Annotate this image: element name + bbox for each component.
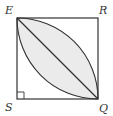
vertex-label-E: E xyxy=(4,4,13,17)
vertex-label-Q: Q xyxy=(99,102,108,115)
geometry-diagram: E R S Q xyxy=(0,0,113,116)
right-angle-marker-icon xyxy=(17,92,24,99)
vertex-label-S: S xyxy=(5,101,13,114)
vertex-label-R: R xyxy=(98,4,107,17)
